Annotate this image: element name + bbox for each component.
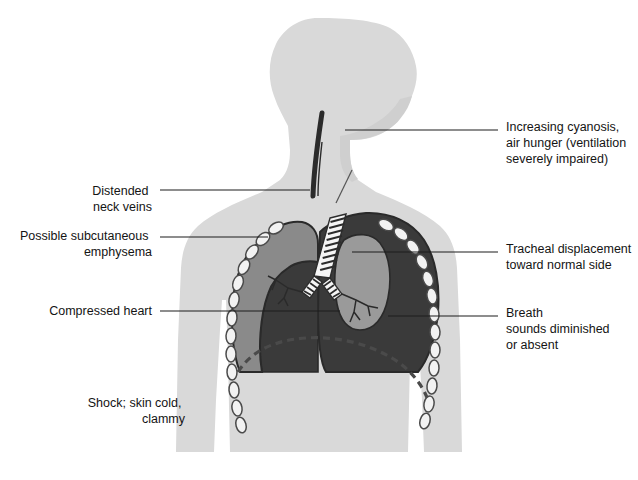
compressed-lung <box>335 235 390 330</box>
tension-pneumothorax-illustration: Increasing cyanosis, air hunger (ventila… <box>0 0 638 480</box>
diagram-canvas: Increasing cyanosis, air hunger (ventila… <box>0 0 638 480</box>
label-compressed-heart: Compressed heart <box>49 304 152 318</box>
